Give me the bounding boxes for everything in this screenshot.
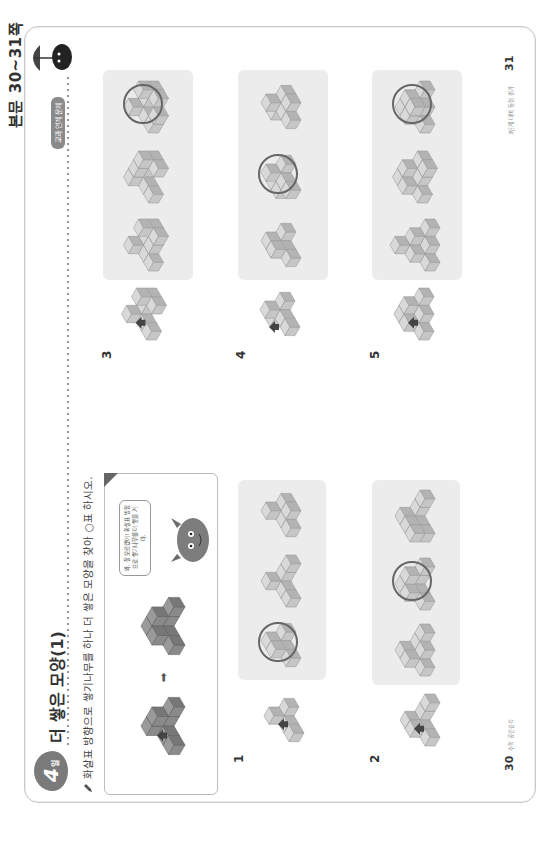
category-tag: 교과 연계 문제 xyxy=(51,97,65,149)
speech-bubble: 와, 잘 모르겠어! 화살표 방향으로 쌓기나무를 더 쌓을 거야. xyxy=(119,500,151,576)
corner-fold xyxy=(104,473,118,487)
option-2[interactable] xyxy=(248,146,314,208)
option-2[interactable] xyxy=(248,550,314,612)
problem-3-given-figure xyxy=(112,279,176,349)
example-after-figure xyxy=(127,586,199,666)
instruction-text: 화살표 방향으로 쌓기나무를 하나 더 쌓은 모양을 찾아 ○표 하시오. xyxy=(80,476,95,779)
left-footer-text: 수학 공간감각 xyxy=(507,719,515,751)
option-3[interactable] xyxy=(248,484,314,546)
problem-2-options-panel xyxy=(372,480,460,685)
problem-5-given-figure xyxy=(382,279,446,349)
right-footer-text: 3단계 대비 동형 평가 xyxy=(507,86,515,135)
option-1[interactable] xyxy=(382,619,448,681)
problem-number: 2 xyxy=(368,755,382,763)
option-3[interactable] xyxy=(248,76,314,138)
problem-4-given-figure xyxy=(248,279,312,349)
option-2[interactable] xyxy=(382,146,448,208)
problem-number: 3 xyxy=(100,351,114,359)
right-page-number: 31 xyxy=(503,56,516,71)
mascot-umbrella-icon xyxy=(26,41,74,75)
problem-number: 1 xyxy=(232,755,246,763)
left-page-number: 30 xyxy=(503,756,516,771)
example-before-figure xyxy=(127,686,199,766)
arrow-right-icon: ➡ xyxy=(157,673,170,682)
problem-4-options-panel xyxy=(238,70,328,280)
monster-mascot-icon xyxy=(167,514,211,568)
option-3[interactable] xyxy=(382,485,448,547)
pencil-icon xyxy=(83,783,93,793)
day-badge: 4 일 xyxy=(34,751,68,791)
option-1[interactable] xyxy=(113,214,179,276)
option-1[interactable] xyxy=(248,614,314,676)
option-3[interactable] xyxy=(113,76,179,138)
page-title: 더 쌓은 모양(1) xyxy=(44,631,68,743)
problem-2-given-figure xyxy=(388,685,452,755)
problem-number: 4 xyxy=(234,351,248,359)
option-2[interactable] xyxy=(113,146,179,208)
option-1[interactable] xyxy=(248,214,314,276)
example-box: ➡ 와, 잘 모르겠어! 화살표 방향으로 쌓기나무를 더 쌓을 거야. xyxy=(104,473,218,795)
problem-1-given-figure xyxy=(252,685,316,755)
dotted-divider xyxy=(66,75,70,747)
problem-number: 5 xyxy=(368,351,382,359)
problem-1-options-panel xyxy=(238,480,326,680)
page-range-label: 본문 30~31쪽 xyxy=(4,22,25,128)
option-3[interactable] xyxy=(382,76,448,138)
option-1[interactable] xyxy=(382,214,448,276)
day-number: 4 xyxy=(39,768,63,782)
instruction-row: 화살표 방향으로 쌓기나무를 하나 더 쌓은 모양을 찾아 ○표 하시오. xyxy=(80,476,95,793)
problem-3-options-panel xyxy=(103,70,193,280)
day-unit: 일 xyxy=(49,760,60,767)
option-2[interactable] xyxy=(382,553,448,615)
problem-5-options-panel xyxy=(372,70,462,280)
